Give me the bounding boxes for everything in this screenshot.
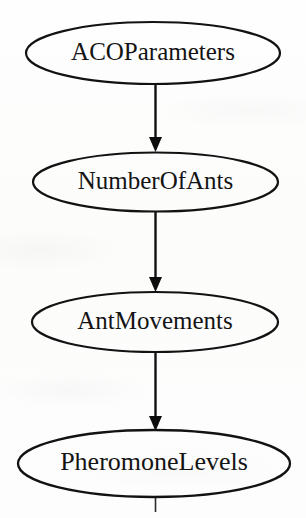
node-aco-parameters[interactable]: ACOParameters <box>26 22 280 84</box>
edge-aco-to-ants <box>149 85 162 152</box>
arrowhead-icon <box>149 416 162 431</box>
node-label: AntMovements <box>77 307 233 334</box>
node-label: ACOParameters <box>71 38 235 65</box>
node-number-of-ants[interactable]: NumberOfAnts <box>33 153 278 212</box>
node-label: PheromoneLevels <box>60 447 248 476</box>
edge-ants-to-movements <box>149 212 162 292</box>
diagram-canvas: ACOParameters NumberOfAnts AntMovements … <box>0 0 306 518</box>
node-label: NumberOfAnts <box>78 167 234 194</box>
node-pheromone-levels[interactable]: PheromoneLevels <box>18 430 290 497</box>
edge-movements-to-pheromone <box>149 352 162 431</box>
flowchart-graph: ACOParameters NumberOfAnts AntMovements … <box>0 0 306 518</box>
node-ant-movements[interactable]: AntMovements <box>32 292 278 352</box>
arrowhead-icon <box>149 277 162 292</box>
arrowhead-icon <box>149 137 162 152</box>
